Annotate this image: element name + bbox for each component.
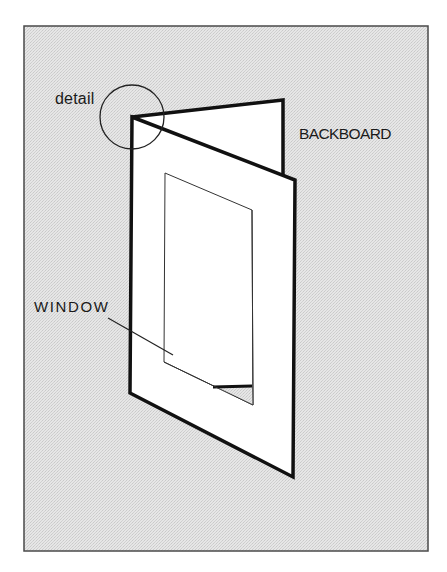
backboard-bottom-edge: [213, 386, 252, 387]
mat-assembly-diagram: [0, 0, 447, 572]
backboard-label: BACKBOARD: [299, 126, 391, 142]
window-label: WINDOW: [34, 299, 109, 314]
detail-label: detail: [55, 91, 94, 107]
